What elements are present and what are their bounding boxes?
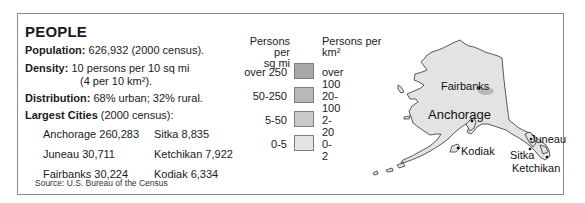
legend-sq-mi-value: over 250 bbox=[223, 66, 287, 78]
largest-cities-note: (2000 census): bbox=[101, 109, 174, 121]
map-label-fairbanks: Fairbanks bbox=[441, 80, 489, 92]
population-label: Population: bbox=[25, 44, 86, 56]
panel-title: PEOPLE bbox=[25, 23, 87, 40]
density-label: Density: bbox=[25, 62, 68, 74]
kodiak-dot bbox=[457, 147, 460, 150]
map-label-juneau: Juneau bbox=[530, 133, 566, 145]
aleutian-island bbox=[386, 168, 393, 172]
density-stat: Density: 10 persons per 10 sq mi (4 per … bbox=[25, 62, 189, 88]
city-juneau: Juneau 30,711 bbox=[43, 148, 115, 160]
city-anchorage: Anchorage 260,283 bbox=[43, 128, 139, 140]
legend-swatch-over-250 bbox=[294, 63, 314, 79]
density-value-line1: 10 persons per 10 sq mi bbox=[71, 62, 189, 74]
population-stat: Population: 626,932 (2000 census). bbox=[25, 44, 204, 57]
map-label-kodiak: Kodiak bbox=[461, 145, 495, 157]
legend-sq-mi-value: 0-5 bbox=[223, 138, 287, 150]
legend-header-sq-mi: Persons per sq mi bbox=[235, 36, 290, 69]
ketchikan-dot bbox=[546, 156, 549, 159]
aleutian-island bbox=[397, 163, 405, 168]
distribution-stat: Distribution: 68% urban; 32% rural. bbox=[25, 92, 203, 105]
distribution-label: Distribution: bbox=[25, 92, 90, 104]
western-island bbox=[404, 116, 410, 119]
map-label-anchorage: Anchorage bbox=[428, 107, 491, 122]
legend-sq-mi-value: 5-50 bbox=[223, 114, 287, 126]
population-value: 626,932 (2000 census). bbox=[89, 44, 205, 56]
source-note: Source: U.S. Bureau of the Census bbox=[35, 178, 168, 188]
map-label-sitka: Sitka bbox=[510, 149, 534, 161]
legend-km2-value: 2-20 bbox=[322, 114, 334, 138]
legend-swatch-50-250 bbox=[294, 87, 314, 103]
city-ketchikan: Ketchikan 7,922 bbox=[154, 148, 233, 160]
largest-cities-heading: Largest Cities (2000 census): bbox=[25, 109, 174, 122]
map-label-ketchikan: Ketchikan bbox=[512, 162, 560, 174]
largest-cities-label: Largest Cities bbox=[25, 109, 98, 121]
legend-swatch-5-50 bbox=[294, 111, 314, 127]
legend-km2-value: 0-2 bbox=[322, 138, 332, 162]
western-island bbox=[398, 85, 404, 93]
legend-swatch-0-5 bbox=[294, 135, 314, 151]
legend-header-sq-mi-line1: Persons per bbox=[235, 36, 290, 58]
density-value-line2: (4 per 10 km²). bbox=[25, 75, 189, 88]
legend-sq-mi-value: 50-250 bbox=[223, 90, 287, 102]
legend-km2-value: over 100 bbox=[322, 66, 343, 90]
distribution-value: 68% urban; 32% rural. bbox=[93, 92, 202, 104]
aleutian-island bbox=[373, 171, 378, 175]
legend-km2-value: 20-100 bbox=[322, 90, 340, 114]
city-sitka: Sitka 8,835 bbox=[154, 128, 209, 140]
